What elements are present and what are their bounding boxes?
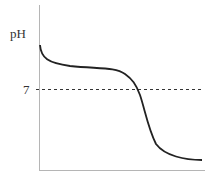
titration-curve <box>40 45 202 160</box>
tick-label-7: 7 <box>23 82 30 97</box>
titration-chart: pH 7 <box>0 0 221 180</box>
y-axis-label: pH <box>10 26 26 41</box>
